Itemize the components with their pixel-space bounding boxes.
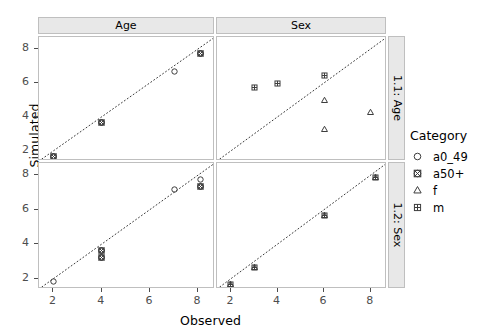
legend-item-m[interactable]: m bbox=[409, 199, 481, 216]
legend-item-a0-49[interactable]: a0_49 bbox=[409, 148, 481, 165]
data-point bbox=[320, 65, 329, 74]
x-axis-tick bbox=[197, 288, 198, 292]
panel-age-sex bbox=[216, 36, 386, 160]
data-point bbox=[170, 179, 179, 188]
data-point bbox=[196, 176, 205, 185]
y-axis-tick bbox=[34, 82, 38, 83]
y-axis-tick-label: 8 bbox=[7, 41, 29, 54]
data-point bbox=[250, 257, 259, 266]
identity-reference-line bbox=[39, 163, 214, 288]
x-axis-tick bbox=[101, 288, 102, 292]
data-point bbox=[320, 119, 329, 128]
circled-cross-icon bbox=[409, 165, 426, 182]
x-axis-tick bbox=[149, 288, 150, 292]
data-point bbox=[49, 271, 58, 280]
legend: Category a0_49a50+fm bbox=[409, 128, 481, 216]
identity-reference-line bbox=[217, 37, 386, 160]
legend-item-label: f bbox=[433, 184, 437, 198]
chart-root: Simulated Observed Age Sex 1.1: Age 1.2:… bbox=[0, 0, 481, 335]
y-axis-tick-label: 6 bbox=[7, 202, 29, 215]
dotted-square-icon bbox=[409, 199, 426, 216]
panel-sex-sex bbox=[216, 162, 386, 288]
data-point bbox=[273, 73, 282, 82]
data-point bbox=[371, 167, 380, 176]
x-axis-tick bbox=[52, 288, 53, 292]
x-axis-tick-label: 2 bbox=[219, 294, 241, 307]
legend-item-label: a0_49 bbox=[433, 150, 468, 164]
legend-item-label: m bbox=[433, 201, 444, 215]
y-axis-tick-label: 2 bbox=[7, 143, 29, 156]
x-axis-tick-label: 6 bbox=[138, 294, 160, 307]
identity-reference-line bbox=[39, 37, 214, 160]
panel-age-age bbox=[38, 36, 214, 160]
data-point bbox=[250, 77, 259, 86]
y-axis-tick-label: 4 bbox=[7, 109, 29, 122]
y-axis-tick-label: 6 bbox=[7, 75, 29, 88]
data-point bbox=[320, 90, 329, 99]
strip-col-sex-label: Sex bbox=[291, 19, 311, 32]
y-axis-tick bbox=[34, 243, 38, 244]
strip-row-sex: 1.2: Sex bbox=[388, 162, 405, 288]
data-point bbox=[196, 43, 205, 52]
data-point bbox=[320, 205, 329, 214]
x-axis-tick bbox=[230, 288, 231, 292]
legend-items: a0_49a50+fm bbox=[409, 148, 481, 216]
legend-item-f[interactable]: f bbox=[409, 182, 481, 199]
x-axis-tick-label: 2 bbox=[41, 294, 63, 307]
x-axis-tick-label: 8 bbox=[359, 294, 381, 307]
panel-sex-age bbox=[38, 162, 214, 288]
data-point bbox=[97, 247, 106, 256]
y-axis-tick-label: 8 bbox=[7, 167, 29, 180]
y-axis-tick bbox=[34, 116, 38, 117]
strip-col-age: Age bbox=[38, 17, 214, 34]
x-axis-tick bbox=[370, 288, 371, 292]
x-axis-tick bbox=[277, 288, 278, 292]
y-axis-tick bbox=[34, 150, 38, 151]
y-axis-tick bbox=[34, 209, 38, 210]
data-point bbox=[49, 146, 58, 155]
x-axis-title: Observed bbox=[33, 313, 388, 328]
y-axis-tick-label: 2 bbox=[7, 271, 29, 284]
y-axis-tick bbox=[34, 174, 38, 175]
open-triangle-icon bbox=[409, 182, 426, 199]
open-circle-icon bbox=[409, 148, 426, 165]
identity-reference-line bbox=[217, 163, 386, 288]
legend-title: Category bbox=[410, 128, 481, 143]
x-axis-tick-label: 8 bbox=[186, 294, 208, 307]
data-point bbox=[226, 274, 235, 283]
data-point bbox=[170, 61, 179, 70]
legend-item-a50-[interactable]: a50+ bbox=[409, 165, 481, 182]
data-point bbox=[97, 112, 106, 121]
x-axis-tick-label: 6 bbox=[312, 294, 334, 307]
strip-col-sex: Sex bbox=[216, 17, 386, 34]
y-axis-tick bbox=[34, 278, 38, 279]
x-axis-tick bbox=[323, 288, 324, 292]
x-axis-tick-label: 4 bbox=[266, 294, 288, 307]
strip-row-sex-label: 1.2: Sex bbox=[390, 203, 403, 248]
legend-item-label: a50+ bbox=[433, 167, 464, 181]
y-axis-tick-label: 4 bbox=[7, 236, 29, 249]
x-axis-tick-label: 4 bbox=[90, 294, 112, 307]
y-axis-tick bbox=[34, 48, 38, 49]
strip-col-age-label: Age bbox=[115, 19, 136, 32]
strip-row-age-label: 1.1: Age bbox=[390, 75, 403, 121]
strip-row-age: 1.1: Age bbox=[388, 36, 405, 160]
data-point bbox=[366, 102, 375, 111]
